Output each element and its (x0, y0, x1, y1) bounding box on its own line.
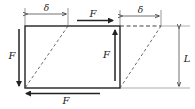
right-dashed-diagonal (120, 26, 161, 88)
delta-left-label: δ (44, 3, 49, 13)
left-dashed-diagonal (25, 26, 68, 88)
shear-diagram: δ δ F F F F L (0, 0, 195, 109)
delta-right-label: δ (138, 5, 143, 15)
force-right-label: F (102, 49, 111, 60)
force-top-label: F (89, 8, 98, 19)
force-bottom-label: F (62, 95, 71, 106)
length-label: L (183, 53, 191, 64)
force-left-label: F (8, 50, 17, 61)
